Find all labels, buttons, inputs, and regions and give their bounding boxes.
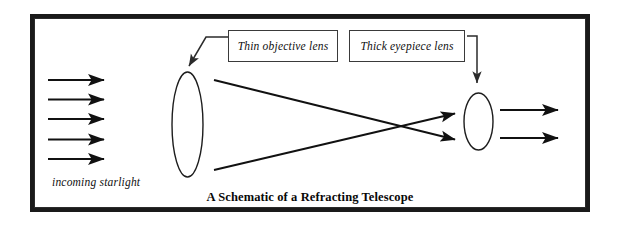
refracting-telescope-figure: Thin objective lens Thick eyepiece lens …: [0, 0, 617, 230]
objective-lens-label-text: Thin objective lens: [238, 40, 329, 52]
incoming-starlight-label: incoming starlight: [52, 176, 140, 188]
figure-title: A Schematic of a Refracting Telescope: [30, 190, 590, 205]
eyepiece-lens-label-text: Thick eyepiece lens: [360, 40, 453, 52]
eyepiece-lens-label-box: Thick eyepiece lens: [349, 30, 465, 62]
objective-lens-label-box: Thin objective lens: [228, 30, 338, 62]
